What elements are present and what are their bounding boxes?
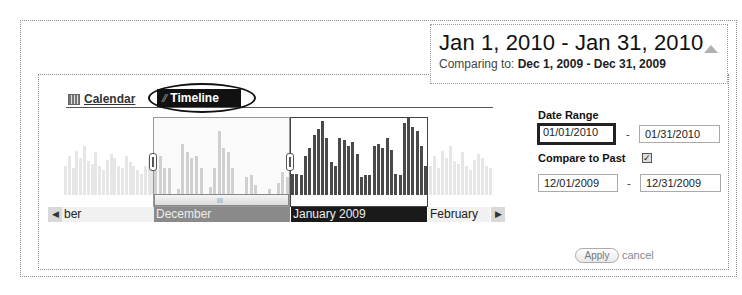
compare-checkbox[interactable]: ✓ bbox=[642, 153, 652, 163]
tab-divider bbox=[66, 107, 493, 108]
chart-bar bbox=[132, 166, 135, 195]
range-dash: - bbox=[626, 128, 630, 140]
apply-button[interactable]: Apply bbox=[575, 248, 619, 263]
selected-range-text: Jan 1, 2010 - Jan 31, 2010 bbox=[439, 30, 727, 56]
chart-bar bbox=[68, 156, 71, 195]
timeline-month-december[interactable]: December bbox=[154, 207, 290, 222]
grip-icon: III bbox=[217, 197, 223, 204]
compare-end-input[interactable]: 12/31/2009 bbox=[640, 174, 721, 192]
timeline-next-button[interactable]: ▶ bbox=[491, 207, 505, 222]
chart-bar bbox=[453, 161, 456, 195]
chart-bar bbox=[433, 156, 436, 195]
compare-start-input[interactable]: 12/01/2009 bbox=[538, 174, 618, 192]
chart-bar bbox=[449, 146, 452, 195]
range-start-handle[interactable] bbox=[149, 153, 157, 171]
chart-bar bbox=[72, 168, 75, 195]
chart-bar bbox=[429, 166, 432, 195]
selected-window[interactable] bbox=[290, 117, 428, 207]
chart-bar bbox=[489, 168, 492, 195]
chart-bar bbox=[129, 162, 132, 195]
collapse-arrow-icon[interactable] bbox=[704, 45, 718, 53]
comparison-scroll-handle[interactable]: III bbox=[154, 194, 289, 206]
chart-bar bbox=[469, 170, 472, 195]
chart-bar bbox=[75, 151, 78, 195]
chart-bar bbox=[441, 151, 444, 195]
timeline-month-january[interactable]: January 2009 bbox=[291, 207, 427, 222]
chart-bar bbox=[481, 158, 484, 195]
chart-bar bbox=[94, 152, 97, 195]
line-chart-icon: ⁄⁄ bbox=[163, 93, 166, 104]
chart-bar bbox=[64, 166, 67, 195]
compare-to-past-label: Compare to Past bbox=[538, 152, 625, 164]
chart-bar bbox=[473, 160, 476, 195]
chart-bar bbox=[106, 160, 109, 195]
chart-bar bbox=[457, 164, 460, 195]
chart-bar bbox=[83, 146, 86, 195]
cancel-link[interactable]: cancel bbox=[622, 249, 654, 261]
chart-bar bbox=[477, 154, 480, 195]
arrow-right-icon: ▶ bbox=[495, 209, 502, 219]
timeline-month-february[interactable]: February bbox=[428, 207, 490, 222]
arrow-left-icon: ◀ bbox=[52, 209, 59, 219]
chart-bar bbox=[121, 168, 124, 195]
timeline-prev-button[interactable]: ◀ bbox=[48, 207, 62, 222]
chart-bar bbox=[125, 156, 128, 195]
chart-bar bbox=[136, 170, 139, 195]
chart-bar bbox=[102, 170, 105, 195]
tab-calendar-label: Calendar bbox=[84, 92, 135, 106]
compare-range-value: Dec 1, 2009 - Dec 31, 2009 bbox=[518, 57, 666, 71]
chart-bar bbox=[437, 168, 440, 195]
timeline-month-november[interactable]: ber bbox=[62, 207, 154, 222]
calendar-icon bbox=[68, 94, 80, 105]
chart-bar bbox=[465, 166, 468, 195]
chart-bar bbox=[113, 158, 116, 195]
date-range-label: Date Range bbox=[538, 109, 599, 121]
tab-timeline[interactable]: ⁄⁄ Timeline bbox=[157, 89, 241, 107]
chart-bar bbox=[461, 152, 464, 195]
start-date-input[interactable]: 01/01/2010 bbox=[537, 123, 616, 145]
chart-bar bbox=[140, 174, 143, 195]
chart-bar bbox=[117, 166, 120, 195]
chart-bar bbox=[79, 158, 82, 195]
compare-range-text: Comparing to: Dec 1, 2009 - Dec 31, 2009 bbox=[439, 57, 727, 71]
chart-bar bbox=[98, 166, 101, 195]
chart-bar bbox=[485, 166, 488, 195]
chart-bar bbox=[110, 154, 113, 195]
compare-prefix: Comparing to: bbox=[439, 57, 518, 71]
range-end-handle[interactable] bbox=[286, 153, 294, 171]
chart-bar bbox=[87, 161, 90, 195]
tab-timeline-label: Timeline bbox=[170, 91, 218, 105]
tab-calendar[interactable]: Calendar bbox=[68, 92, 135, 106]
chart-bar bbox=[144, 166, 147, 195]
end-date-input[interactable]: 01/31/2010 bbox=[639, 125, 720, 143]
chart-bar bbox=[445, 158, 448, 195]
date-range-summary[interactable]: Jan 1, 2010 - Jan 31, 2010 Comparing to:… bbox=[430, 24, 728, 84]
chart-bar bbox=[91, 164, 94, 195]
compare-dash: - bbox=[627, 177, 631, 189]
